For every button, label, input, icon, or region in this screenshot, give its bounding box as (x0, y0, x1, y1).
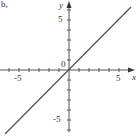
origin-label: 0 (61, 60, 66, 69)
x-tick-label-neg5: -5 (14, 74, 22, 83)
y-tick-label-neg5: -5 (53, 115, 61, 124)
x-tick-label-5: 5 (116, 74, 121, 83)
y-axis-arrow-icon (67, 1, 72, 8)
y-tick-label-5: 5 (58, 15, 63, 24)
x-axis-label: x (132, 73, 136, 82)
chart-plot-area (0, 0, 140, 136)
y-axis-label: y (59, 1, 63, 10)
panel-label: b, (1, 0, 8, 9)
